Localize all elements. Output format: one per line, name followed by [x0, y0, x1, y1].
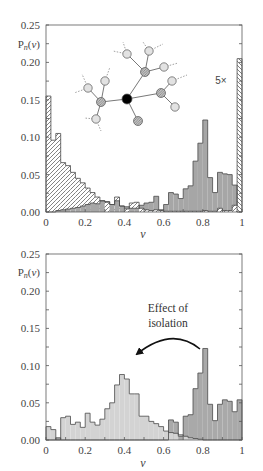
x-tick-label: 0.6 — [157, 216, 171, 228]
histogram-bar-gray — [120, 206, 125, 212]
histogram-bar-light — [51, 430, 56, 440]
hatched-node-icon — [134, 117, 143, 126]
light-node-icon — [123, 50, 131, 58]
histogram-bar-hatched — [124, 209, 129, 212]
top-panel: 0.000.050.100.150.200.2500.20.40.60.81 P… — [18, 19, 245, 241]
histogram-bar-gray — [115, 201, 120, 212]
light-node-icon — [168, 77, 176, 85]
x-tick-label: 0.8 — [196, 444, 210, 456]
histogram-bar-light — [139, 416, 144, 440]
histogram-bar-hatched — [46, 96, 51, 212]
histogram-bar-light — [164, 431, 169, 440]
x-tick-label: 0.8 — [196, 216, 210, 228]
histogram-bar-light — [183, 436, 188, 440]
inset-network-diagram — [74, 42, 187, 131]
annotation-effect-of: Effect of — [148, 302, 189, 314]
histogram-bar-dark — [203, 348, 208, 440]
x-tick-label: 1 — [239, 444, 245, 456]
histogram-bar-light — [115, 385, 120, 440]
histogram-bar-gray — [188, 186, 193, 212]
light-node-icon — [101, 77, 109, 85]
light-node-icon — [160, 63, 168, 71]
histogram-bar-light — [80, 427, 85, 440]
histogram-bar-hatched — [105, 202, 110, 212]
histogram-bar-gray — [100, 201, 105, 212]
histogram-bar-gray — [218, 172, 223, 212]
histogram-bar-gray — [227, 175, 232, 212]
histogram-bar-hatched — [232, 205, 237, 212]
histogram-bar-dark — [232, 412, 237, 440]
histogram-bar-light — [134, 394, 139, 440]
histogram-bar-gray — [90, 203, 95, 212]
histogram-bar-gray — [66, 209, 71, 212]
histogram-bar-light — [120, 375, 125, 440]
histogram-bar-light — [124, 379, 129, 440]
x-tick-label: 0.6 — [157, 444, 171, 456]
x-tick-label: 0 — [43, 216, 49, 228]
x-tick-label: 0.4 — [118, 216, 132, 228]
histogram-bar-gray — [198, 143, 203, 212]
histogram-bar-hatched — [71, 172, 76, 212]
histogram-bar-light — [85, 413, 90, 440]
histogram-bar-light — [105, 409, 110, 440]
y-tick-label: 0.10 — [21, 360, 41, 372]
center-node-icon — [122, 94, 132, 104]
top-y-axis-label: Pn(v) — [18, 38, 41, 52]
y-tick-label: 0.10 — [21, 131, 41, 143]
histogram-bar-gray — [169, 193, 174, 212]
hatched-node-icon — [157, 89, 166, 98]
histogram-bar-gray — [178, 199, 183, 212]
x-tick-label: 0.4 — [118, 444, 132, 456]
histogram-bar-gray — [173, 194, 178, 212]
histogram-bar-light — [95, 425, 100, 440]
histogram-bar-dark — [222, 400, 227, 440]
histogram-bar-light — [75, 422, 80, 440]
x-tick-label: 0 — [43, 444, 49, 456]
histogram-bar-gray — [134, 208, 139, 212]
light-node-icon — [84, 84, 92, 92]
histogram-bar-gray — [95, 204, 100, 212]
histogram-bar-hatched — [75, 178, 80, 212]
histogram-bar-gray — [183, 189, 188, 212]
histogram-bar-dark — [178, 436, 183, 440]
histogram-bar-light — [61, 418, 66, 440]
x-tick-label: 0.2 — [78, 216, 92, 228]
bottom-y-axis-label: Pn(v) — [18, 266, 41, 280]
histogram-bar-light — [66, 416, 71, 440]
histogram-bar-gray — [208, 178, 213, 212]
histogram-bar-hatched — [218, 208, 223, 212]
bottom-histogram — [46, 348, 242, 440]
histogram-bar-hatched — [61, 163, 66, 212]
histogram-bar-gray — [222, 174, 227, 212]
scale-factor-note: 5× — [215, 75, 227, 86]
y-tick-label: 0.05 — [21, 169, 41, 181]
histogram-bar-dark — [188, 415, 193, 440]
histogram-bar-dark — [198, 373, 203, 440]
histogram-bar-gray — [71, 208, 76, 212]
histogram-bar-light — [149, 421, 154, 440]
histogram-bar-light — [71, 424, 76, 440]
histogram-bar-gray — [80, 206, 85, 212]
histogram-bar-dark — [237, 400, 242, 440]
histogram-bar-gray — [193, 161, 198, 212]
y-tick-label: 0.25 — [21, 248, 41, 260]
histogram-bar-light — [110, 403, 115, 440]
histogram-bar-gray — [203, 120, 208, 212]
y-tick-label: 0.15 — [21, 322, 41, 334]
y-tick-label: 0.00 — [21, 206, 41, 218]
light-node-icon — [171, 103, 179, 111]
histogram-bar-light — [169, 433, 174, 440]
histogram-bar-hatched — [51, 140, 56, 212]
histogram-bar-light — [46, 427, 51, 440]
hatched-node-icon — [97, 98, 106, 107]
histogram-bar-dark — [208, 404, 213, 440]
histogram-bar-hatched — [139, 208, 144, 212]
histogram-bar-hatched — [237, 59, 242, 212]
histogram-bar-hatched — [56, 133, 61, 212]
histogram-bar-dark — [193, 389, 198, 440]
x-tick-label: 1 — [239, 216, 245, 228]
y-tick-label: 0.15 — [21, 94, 41, 106]
y-tick-label: 0.20 — [21, 285, 41, 297]
histogram-bar-light — [144, 416, 149, 440]
histogram-bar-light — [90, 422, 95, 440]
